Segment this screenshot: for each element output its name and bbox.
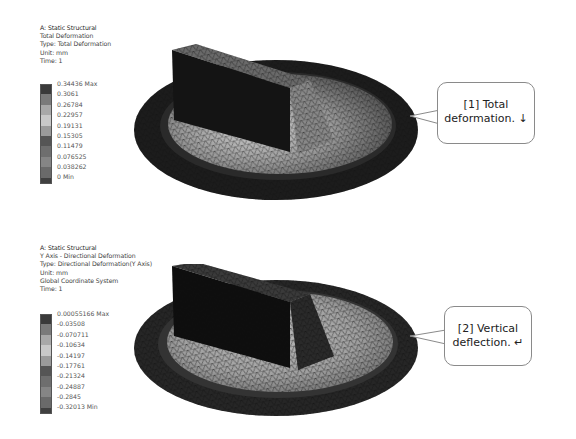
total-deformation-panel: A: Static Structural Total Deformation T…: [0, 0, 576, 220]
callout-total-deformation: [1] Total deformation. ↓: [437, 82, 535, 144]
callout-line-2: deformation. ↓: [438, 112, 534, 126]
callout-line-2: deflection. ↵: [445, 336, 531, 350]
callout-vertical-deflection: [2] Vertical deflection. ↵: [444, 306, 532, 366]
vertical-deflection-panel: A: Static Structural Y Axis - Directiona…: [0, 220, 576, 439]
callout-line-1: [1] Total: [438, 98, 534, 112]
callout-line-1: [2] Vertical: [445, 322, 531, 336]
